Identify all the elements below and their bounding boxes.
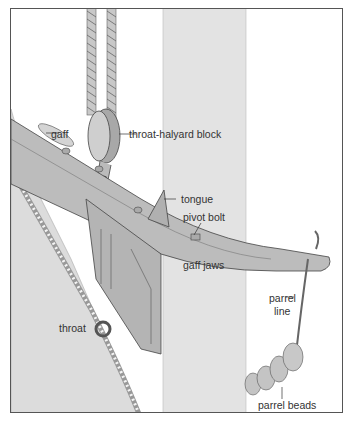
diagram-frame: gaff throat-halyard block tongue pivot b… — [10, 8, 343, 413]
label-throat-halyard-block: throat-halyard block — [129, 128, 221, 140]
parrel-line — [315, 231, 318, 249]
label-parrel-beads: parrel beads — [258, 399, 316, 411]
label-pivot-bolt: pivot bolt — [183, 211, 225, 223]
label-gaff: gaff — [51, 128, 68, 140]
parrel-beads — [245, 343, 303, 395]
pivot-bolt — [191, 234, 200, 240]
label-tongue: tongue — [181, 193, 213, 205]
label-gaff-jaws: gaff jaws — [183, 259, 224, 271]
gaff-jaws-illustration — [11, 9, 343, 413]
label-parrel-line-1: parrel — [269, 292, 296, 304]
label-throat: throat — [59, 322, 86, 334]
label-parrel-line-2: line — [274, 305, 290, 317]
halyard-ropes — [87, 9, 116, 119]
